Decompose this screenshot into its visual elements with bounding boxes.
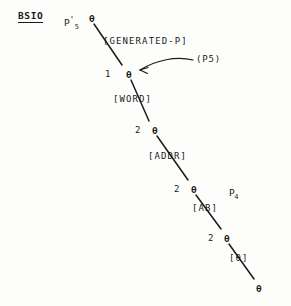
side-symbol-p4-subscript: 4 [234, 193, 238, 201]
tree-node-4: θ [224, 234, 230, 244]
arc-number-2: 2 [135, 126, 140, 135]
root-symbol-p5-prime: P'5 [64, 18, 79, 28]
category-label-addr: [ADDR] [148, 152, 187, 161]
category-label-ab: [AB] [192, 204, 218, 213]
category-label-word: [WORD] [113, 95, 152, 104]
p5-reference-arrow [140, 58, 193, 73]
tree-node-0: θ [89, 14, 95, 24]
root-symbol-prime: ' [69, 15, 74, 25]
tree-node-5: θ [256, 284, 262, 294]
annotation-p5-open: (P [196, 54, 208, 64]
tree-node-1: θ [126, 70, 132, 80]
tree-node-3: θ [191, 185, 197, 195]
diagram-tag-bsio: BSIO [18, 11, 43, 23]
arc-number-1: 1 [105, 70, 110, 79]
figure-canvas: BSIO P'5 θ θ θ θ θ θ 1 2 2 2 [GENERATED-… [0, 0, 291, 306]
side-symbol-p4: P4 [229, 188, 239, 198]
arc-number-3: 2 [174, 185, 179, 194]
annotation-p5: (P5) [196, 55, 221, 64]
category-label-theta: [θ] [229, 254, 249, 263]
root-symbol-subscript: 5 [75, 23, 79, 31]
category-label-generated-p: [GENERATED-P] [103, 37, 188, 46]
annotation-p5-close: ) [215, 54, 221, 64]
arc-number-4: 2 [208, 234, 213, 243]
tree-node-2: θ [152, 126, 158, 136]
